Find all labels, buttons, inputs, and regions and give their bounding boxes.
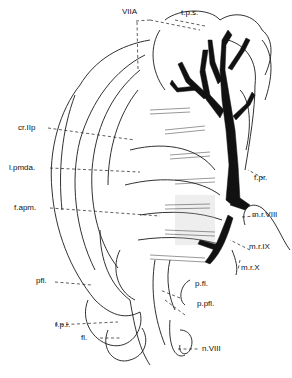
label-fl: fl. — [81, 334, 87, 342]
label-f-p-l: f.p.l. — [55, 321, 70, 329]
cerebellum-diagram: VIIA t.p.s. cr.IIp l.pmda. f.apm. f.pr. … — [0, 0, 292, 378]
label-cr-iip: cr.IIp — [18, 124, 35, 132]
label-f-pr: f.pr. — [254, 174, 267, 182]
label-n-viii: n.VIII — [202, 345, 221, 353]
label-tps: t.p.s. — [181, 9, 198, 17]
label-mr-x: m.r.X — [241, 264, 260, 272]
label-mr-ix: m.r.IX — [249, 243, 270, 251]
label-viia: VIIA — [122, 8, 137, 16]
label-p-fl: p.fl. — [195, 280, 208, 288]
label-pfl: pfl. — [36, 277, 47, 285]
label-mr-viii: m.r.VIII — [252, 211, 277, 219]
diagram-drawing — [0, 0, 292, 378]
label-l-pmda: l.pmda. — [9, 164, 35, 172]
label-p-pfl: p.pfl. — [197, 300, 214, 308]
label-f-apm: f.apm. — [14, 204, 36, 212]
